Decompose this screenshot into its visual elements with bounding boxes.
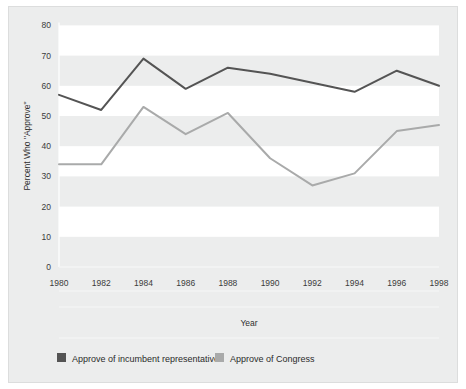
y-tick-label: 0 <box>46 262 51 272</box>
line-chart: 0102030405060708019801982198419861988199… <box>0 0 466 389</box>
y-tick-label: 80 <box>42 20 52 30</box>
x-tick-label: 1986 <box>176 278 195 288</box>
y-axis-ticks: 01020304050607080 <box>42 20 52 272</box>
y-tick-label: 10 <box>42 232 52 242</box>
legend-swatch <box>215 353 224 362</box>
x-tick-label: 1980 <box>50 278 69 288</box>
legend-label: Approve of Congress <box>230 354 315 364</box>
y-tick-label: 40 <box>42 141 52 151</box>
y-tick-label: 70 <box>42 51 52 61</box>
y-tick-label: 20 <box>42 202 52 212</box>
x-tick-label: 1994 <box>345 278 364 288</box>
chart-figure: 0102030405060708019801982198419861988199… <box>0 0 466 389</box>
x-tick-label: 1988 <box>218 278 237 288</box>
legend-swatch <box>57 353 66 362</box>
x-axis-ticks: 1980198219841986198819901992199419961998 <box>50 278 449 288</box>
y-tick-label: 30 <box>42 171 52 181</box>
x-tick-label: 1996 <box>387 278 406 288</box>
x-axis-title: Year <box>240 318 257 328</box>
x-tick-label: 1998 <box>430 278 449 288</box>
chart-legend: Approve of incumbent representativeAppro… <box>57 353 315 364</box>
x-tick-label: 1990 <box>261 278 280 288</box>
y-tick-label: 60 <box>42 81 52 91</box>
y-axis-title: Percent Who "Approve" <box>22 101 32 190</box>
x-tick-label: 1984 <box>134 278 153 288</box>
y-tick-label: 50 <box>42 111 52 121</box>
x-tick-label: 1982 <box>92 278 111 288</box>
background-bands <box>59 25 439 236</box>
x-tick-label: 1992 <box>303 278 322 288</box>
legend-label: Approve of incumbent representative <box>72 354 219 364</box>
